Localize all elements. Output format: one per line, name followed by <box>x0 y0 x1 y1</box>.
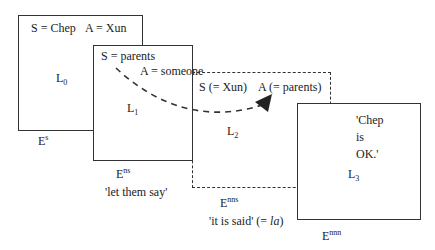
event-label-enns: Enns <box>220 195 238 211</box>
event-label-es: Es <box>38 133 48 149</box>
event-label-ens: Ens <box>116 166 130 182</box>
gloss-let-them-say: 'let them say' <box>105 185 167 200</box>
arrowhead-icon <box>255 94 272 112</box>
gloss-it-is-said: 'it is said' (= la) <box>209 214 283 229</box>
event-label-ennn: Ennn <box>322 228 341 244</box>
reference-arrow <box>0 0 435 250</box>
